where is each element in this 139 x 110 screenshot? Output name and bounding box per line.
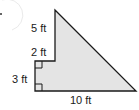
label-ten-ft: 10 ft [70,95,91,106]
label-two-ft: 2 ft [31,47,46,58]
decorative-mark [0,13,2,15]
figure-canvas: 5 ft 2 ft 3 ft 10 ft [0,0,139,110]
composite-polygon [35,10,136,91]
label-five-ft: 5 ft [31,23,46,34]
decorative-arc [2,0,23,30]
label-three-ft: 3 ft [12,74,27,85]
